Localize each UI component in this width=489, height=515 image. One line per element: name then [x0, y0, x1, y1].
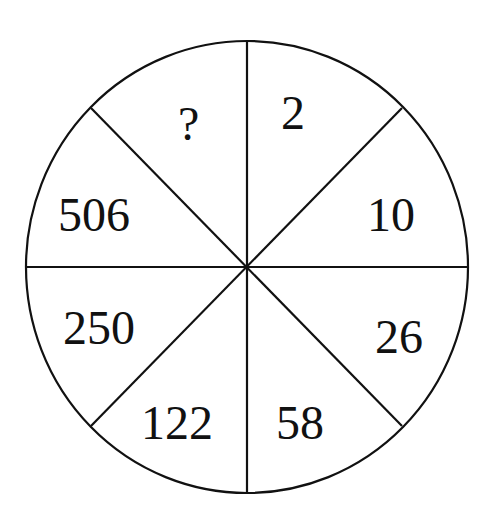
segment-left-upper-value: 506	[58, 188, 130, 241]
number-wheel-diagram: 2 10 26 58 122 250 506 ?	[0, 0, 489, 515]
segment-bottom-right-value: 58	[276, 396, 324, 449]
segment-top-right-value: 2	[281, 86, 305, 139]
segment-left-lower-value: 250	[63, 301, 135, 354]
segment-right-upper-value: 10	[367, 188, 415, 241]
segment-bottom-left-value: 122	[141, 396, 213, 449]
segment-top-left-value: ?	[178, 97, 199, 150]
segment-right-lower-value: 26	[375, 310, 423, 363]
